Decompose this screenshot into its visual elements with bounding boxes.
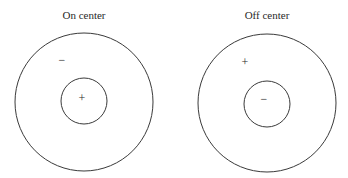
- on-center-surround-sign: −: [59, 53, 66, 67]
- on-center-center-sign: +: [79, 91, 86, 105]
- off-center-panel: Off center + −: [198, 9, 336, 172]
- off-center-title: Off center: [245, 9, 290, 21]
- off-center-surround-sign: +: [242, 55, 249, 69]
- off-center-center-sign: −: [261, 92, 268, 106]
- on-center-title: On center: [62, 9, 105, 21]
- receptive-field-diagram: On center − + Off center + −: [0, 0, 348, 178]
- on-center-panel: On center − +: [15, 9, 153, 171]
